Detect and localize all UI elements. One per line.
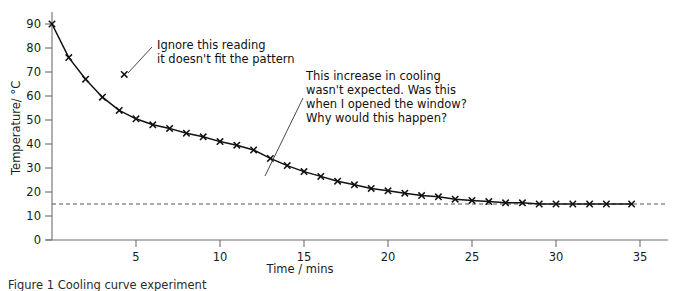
annotation-line: Ignore this reading bbox=[157, 38, 266, 52]
x-tick-label: 30 bbox=[549, 250, 564, 264]
y-tick-label: 90 bbox=[26, 17, 41, 31]
x-tick-label: 25 bbox=[465, 250, 480, 264]
annotation-text: Ignore this readingit doesn't fit the pa… bbox=[157, 38, 295, 66]
data-point-marker bbox=[66, 54, 72, 60]
y-tick-label: 70 bbox=[26, 65, 41, 79]
data-point-marker bbox=[82, 76, 88, 82]
y-tick-label: 80 bbox=[26, 41, 41, 55]
data-point-marker bbox=[99, 94, 105, 100]
annotation-line: This increase in cooling bbox=[305, 69, 441, 83]
data-point-marker bbox=[133, 116, 139, 122]
annotation-line: it doesn't fit the pattern bbox=[157, 52, 295, 66]
y-axis-ticks: 0102030405060708090 bbox=[26, 17, 52, 247]
y-tick-label: 60 bbox=[26, 89, 41, 103]
annotation-leader-line bbox=[128, 47, 152, 73]
annotation-text: This increase in coolingwasn't expected.… bbox=[305, 69, 467, 125]
y-tick-label: 10 bbox=[26, 209, 41, 223]
y-axis-title: Temperature/ °C bbox=[9, 81, 23, 176]
chart-canvas: 0102030405060708090 5101520253035 Ignore… bbox=[0, 0, 675, 291]
x-axis-ticks: 5101520253035 bbox=[132, 240, 647, 264]
figure-caption: Figure 1 Cooling curve experiment bbox=[8, 278, 207, 291]
y-tick-label: 50 bbox=[26, 113, 41, 127]
y-tick-label: 40 bbox=[26, 137, 41, 151]
x-tick-label: 5 bbox=[132, 250, 139, 264]
data-point-marker bbox=[116, 107, 122, 113]
data-point-marker bbox=[121, 71, 127, 77]
annotation-line: wasn't expected. Was this bbox=[306, 83, 456, 97]
annotation-line: when I opened the window? bbox=[306, 97, 467, 111]
x-tick-label: 10 bbox=[213, 250, 228, 264]
annotation-group: Ignore this readingit doesn't fit the pa… bbox=[128, 38, 467, 176]
x-tick-label: 35 bbox=[633, 250, 648, 264]
cooling-curve-figure: 0102030405060708090 5101520253035 Ignore… bbox=[0, 0, 675, 291]
x-tick-label: 20 bbox=[381, 250, 396, 264]
y-tick-label: 20 bbox=[26, 185, 41, 199]
y-tick-label: 30 bbox=[26, 161, 41, 175]
annotation-line: Why would this happen? bbox=[306, 111, 447, 125]
data-point-marker bbox=[284, 162, 290, 168]
x-axis-title: Time / mins bbox=[265, 262, 333, 276]
y-tick-label: 0 bbox=[34, 233, 41, 247]
